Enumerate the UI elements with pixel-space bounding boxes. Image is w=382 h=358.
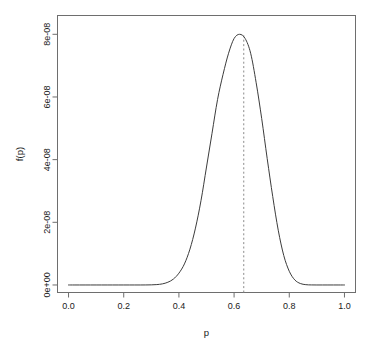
y-tick-label: 6e-08 (43, 85, 53, 108)
y-axis-title: f(p) (14, 147, 25, 161)
x-tick-label: 1.0 (338, 301, 351, 311)
y-tick-label: 2e-08 (43, 211, 53, 234)
x-tick-label: 0.2 (117, 301, 130, 311)
x-tick-label: 0.4 (173, 301, 186, 311)
x-tick-label: 0.0 (62, 301, 75, 311)
x-tick-label: 0.6 (228, 301, 241, 311)
likelihood-line-chart: 0e+002e-084e-086e-088e-08 0.00.20.40.60.… (0, 0, 382, 358)
y-tick-label: 8e-08 (43, 23, 53, 46)
chart-container: 0e+002e-084e-086e-088e-08 0.00.20.40.60.… (0, 0, 382, 358)
x-axis-title: p (204, 327, 209, 338)
x-tick-label: 0.8 (283, 301, 296, 311)
y-tick-label: 4e-08 (43, 148, 53, 171)
y-tick-label: 0e+00 (43, 272, 53, 297)
